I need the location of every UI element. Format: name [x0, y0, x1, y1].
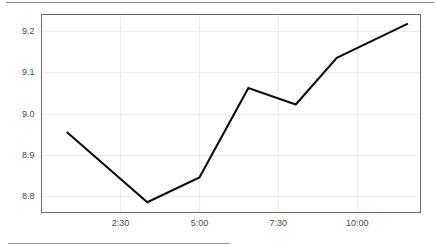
y-axis-tick-label: 9.2 [22, 26, 35, 36]
x-axis-tick-labels: 2:305:007:3010:00 [112, 218, 369, 228]
bottom-divider [8, 243, 230, 244]
y-axis-tick-label: 9.1 [22, 67, 35, 77]
y-axis-tick-label: 8.8 [22, 191, 35, 201]
chart-page: 9.29.19.08.98.8 2:305:007:3010:00 [0, 0, 437, 250]
y-axis-tick-label: 9.0 [22, 109, 35, 119]
x-axis-tick-label: 7:30 [270, 218, 288, 228]
x-axis-tick-label: 2:30 [112, 218, 130, 228]
y-axis-tick-label: 8.9 [22, 150, 35, 160]
y-axis-tick-labels: 9.29.19.08.98.8 [22, 26, 35, 201]
x-axis-tick-label: 5:00 [191, 218, 209, 228]
x-axis-tick-label: 10:00 [346, 218, 369, 228]
line-chart: 9.29.19.08.98.8 2:305:007:3010:00 [0, 0, 437, 250]
chart-canvas: 9.29.19.08.98.8 2:305:007:3010:00 [0, 0, 437, 250]
